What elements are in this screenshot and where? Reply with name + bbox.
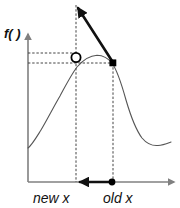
x-tick-label-old-x: old x bbox=[103, 190, 134, 206]
x-tick-label-new-x: new x bbox=[33, 190, 71, 206]
point-markers-group bbox=[71, 53, 116, 186]
guide-lines-group bbox=[28, 5, 113, 182]
gradient-ascent-figure: f( ) new x old x bbox=[0, 0, 180, 208]
new-x-open-circle-marker bbox=[71, 53, 80, 62]
old-x-filled-square-marker bbox=[110, 60, 116, 66]
old-x-axis-filled-dot-marker bbox=[109, 179, 116, 186]
objective-function-curve bbox=[28, 55, 171, 148]
figure-canvas: f( ) new x old x bbox=[0, 0, 180, 208]
y-axis-label: f( ) bbox=[4, 26, 21, 41]
